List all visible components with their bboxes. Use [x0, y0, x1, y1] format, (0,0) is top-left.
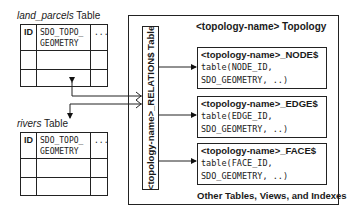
face-table-columns: table(FACE_ID, — [201, 157, 323, 170]
table-cell — [36, 158, 91, 178]
table-cell — [90, 50, 108, 70]
column-sdo-topo-geometry: SDO_TOPO_GEOMETRY — [36, 24, 91, 51]
table-cell — [20, 69, 37, 87]
edge-table-box: <topology-name>_EDGE$ table(EDGE_ID, SDO… — [197, 96, 327, 138]
relation-table-label: <topology-name>_RELATION$ Table — [145, 26, 156, 190]
table-cell — [36, 69, 91, 87]
rivers-table-title: rivers Table — [17, 118, 68, 129]
column-more: ... — [90, 24, 108, 51]
table-cell — [36, 177, 91, 196]
column-id: ID — [20, 24, 37, 51]
edge-table-columns-2: SDO_GEOMETRY, ..) — [201, 123, 323, 136]
face-table-columns-2: SDO_GEOMETRY, ..) — [201, 170, 323, 183]
topology-title: <topology-name> Topology — [196, 21, 326, 32]
table-cell — [36, 50, 91, 70]
column-id: ID — [20, 132, 37, 159]
table-cell — [20, 177, 37, 196]
other-objects-label: Other Tables, Views, and Indexes — [197, 190, 347, 201]
node-table-box: <topology-name>_NODE$ table(NODE_ID, SDO… — [197, 47, 327, 89]
land-parcels-table-title: land_parcels Table — [17, 10, 100, 21]
face-table-box: <topology-name>_FACE$ table(FACE_ID, SDO… — [197, 143, 327, 185]
edge-table-name: <topology-name>_EDGE$ — [201, 98, 323, 110]
table-cell — [20, 50, 37, 70]
table-cell — [90, 158, 108, 178]
node-table-columns-2: SDO_GEOMETRY, ..) — [201, 74, 323, 87]
column-more: ... — [90, 132, 108, 159]
column-sdo-topo-geometry: SDO_TOPO_GEOMETRY — [36, 132, 91, 159]
face-table-name: <topology-name>_FACE$ — [201, 145, 323, 157]
edge-table-columns: table(EDGE_ID, — [201, 110, 323, 123]
table-cell — [20, 158, 37, 178]
table-cell — [90, 177, 108, 196]
node-table-columns: table(NODE_ID, — [201, 61, 323, 74]
node-table-name: <topology-name>_NODE$ — [201, 49, 323, 61]
table-cell — [90, 69, 108, 87]
